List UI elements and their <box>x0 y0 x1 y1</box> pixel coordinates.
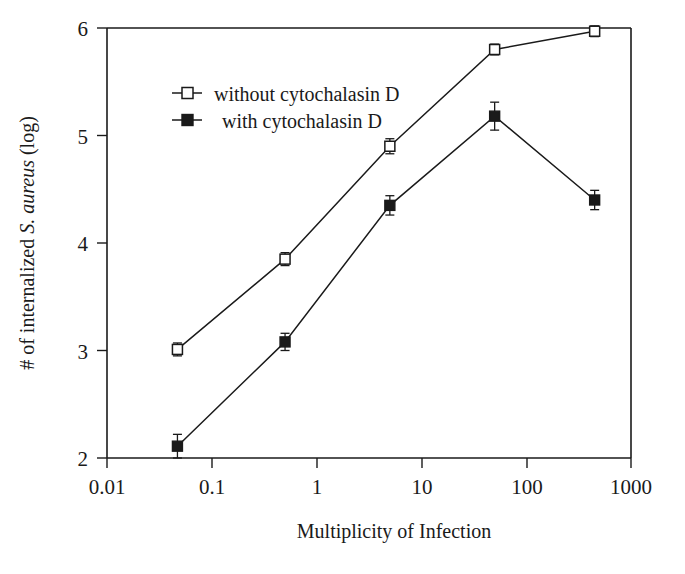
y-tick-label-5: 5 <box>78 125 89 149</box>
legend-label-0: without cytochalasin D <box>214 83 400 106</box>
open-square-marker <box>490 45 500 55</box>
x-tick-label-3: 10 <box>412 475 433 499</box>
open-square-marker <box>590 26 600 36</box>
open-square-marker <box>280 254 290 264</box>
x-axis-tick-labels: 0.01 0.1 1 10 100 1000 <box>89 475 652 499</box>
chart-figure: 0.01 0.1 1 10 100 1000 2 3 4 5 6 <box>0 0 685 574</box>
y-tick-label-6: 6 <box>78 17 89 41</box>
y-axis-ticks <box>97 28 107 458</box>
x-tick-label-0: 0.01 <box>89 475 126 499</box>
filled-square-icon <box>182 115 193 126</box>
y-tick-label-2: 2 <box>78 447 89 471</box>
x-tick-label-5: 1000 <box>610 475 652 499</box>
legend-entry-1: with cytochalasin D <box>172 110 382 133</box>
legend-entry-0: without cytochalasin D <box>172 83 400 106</box>
y-axis-tick-labels: 2 3 4 5 6 <box>78 17 89 471</box>
chart-legend: without cytochalasin D with cytochalasin… <box>172 83 400 133</box>
y-axis-title-post: (log) <box>16 116 39 160</box>
x-axis-ticks <box>107 458 631 468</box>
filled-square-marker <box>490 111 500 121</box>
series-line <box>177 31 594 349</box>
series-without-cytochalasin-d <box>172 26 599 356</box>
line-chart: 0.01 0.1 1 10 100 1000 2 3 4 5 6 <box>0 0 685 574</box>
legend-label-1: with cytochalasin D <box>222 110 382 133</box>
y-tick-label-3: 3 <box>78 340 89 364</box>
filled-square-marker <box>590 195 600 205</box>
filled-square-marker <box>385 200 395 210</box>
series-with-cytochalasin-d <box>172 102 599 458</box>
x-tick-label-1: 0.1 <box>199 475 225 499</box>
filled-square-marker <box>172 441 182 451</box>
x-tick-label-2: 1 <box>312 475 323 499</box>
series-line <box>177 116 594 446</box>
filled-square-marker <box>280 337 290 347</box>
open-square-marker <box>172 344 182 354</box>
y-axis-title-pre: # of internalized <box>16 234 38 370</box>
x-tick-label-4: 100 <box>511 475 543 499</box>
y-axis-title: # of internalized S. aureus (log) <box>16 116 39 370</box>
y-tick-label-4: 4 <box>78 232 89 256</box>
x-axis-title: Multiplicity of Infection <box>297 520 491 543</box>
y-axis-title-species: S. aureus <box>16 160 38 234</box>
open-square-icon <box>182 88 193 99</box>
open-square-marker <box>385 141 395 151</box>
